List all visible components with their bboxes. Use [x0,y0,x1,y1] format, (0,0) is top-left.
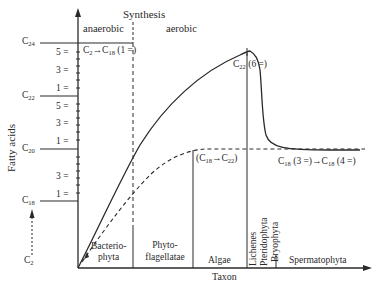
x-axis-arrow-icon [363,265,372,271]
tick-1-double-bond-2: 1 = [56,137,68,147]
y-axis-arrow-icon [75,8,81,17]
taxon-phytoflagellatae: Phyto-flagellatae [141,241,189,262]
tick-c22: C22 [22,91,35,102]
annotation-c18-desaturation: C18 (3 =)→C18 (4 =) [278,157,356,168]
taxon-spermatophyta: Spermatophyta [289,256,347,266]
phase-anaerobic: anaerobic [83,24,124,35]
tick-1-double-bond: 1 = [56,84,68,94]
title-synthesis: Synthesis [123,9,165,20]
y-axis-label: Fatty acids [6,124,17,172]
tick-5-double-bonds-2: 5 = [56,102,68,112]
tick-5-double-bonds: 5 = [56,48,68,58]
tick-c24: C24 [22,37,35,48]
phase-aerobic: aerobic [166,24,197,35]
tick-c20: C20 [22,144,35,155]
tick-1-double-bond-3: 1 = [56,190,68,200]
c2-arrow-head-icon [30,209,35,218]
tick-c18: C18 [22,196,35,207]
annotation-c2-to-c18: C2→C18 (1 =) [83,46,136,57]
x-axis-label: Taxon [212,272,237,282]
tick-3-double-bonds-3: 3 = [56,172,68,182]
taxon-lichenes: Lichenes [249,232,259,266]
annotation-c22-peak: C22 (6 =) [233,60,267,71]
taxon-bryophyta: Bryophyta [271,222,281,262]
taxon-bacteriophyta: Bacterio-phyta [91,242,126,262]
tick-3-double-bonds-2: 3 = [56,119,68,129]
tick-c2: C2 [24,256,34,267]
taxon-pteridophyta: Pteridophyta [260,217,270,266]
taxon-algae: Algae [208,256,231,266]
annotation-c18-to-c22: (C18→C22) [196,154,238,165]
tick-3-double-bonds: 3 = [56,66,68,76]
